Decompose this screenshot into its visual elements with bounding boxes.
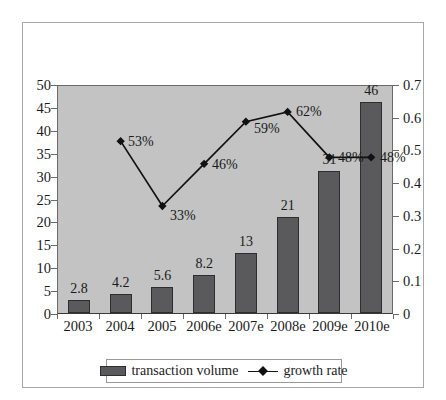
category-axis-label: 2006e	[183, 319, 225, 345]
bar-swatch-icon	[100, 366, 126, 376]
plot-area: 2.84.25.68.213213146 53%33%46%59%62%48%4…	[57, 85, 393, 314]
legend-entry-growth-rate[interactable]: growth rate	[248, 364, 347, 378]
line-diamond-icon	[248, 366, 278, 376]
growth-rate-value-label: 46%	[212, 158, 238, 172]
right-axis-tick-label: 0.7	[403, 78, 421, 93]
category-axis-label: 2003	[57, 319, 99, 345]
growth-rate-line	[121, 112, 372, 206]
category-axis-label: 2010e	[351, 319, 393, 345]
category-axis-labels: 2003200420052006e2007e2008e2009e2010e	[57, 319, 393, 345]
category-axis-label: 2008e	[267, 319, 309, 345]
right-axis-tick	[393, 249, 399, 250]
category-axis-label: 2009e	[309, 319, 351, 345]
right-axis-tick-label: 0	[403, 307, 410, 322]
right-axis-tick	[393, 85, 399, 86]
left-axis-tick-label: 10	[37, 261, 52, 276]
left-axis-tick-label: 15	[37, 238, 52, 253]
left-axis-tick-label: 20	[37, 215, 52, 230]
left-axis-tick-label: 25	[37, 192, 52, 207]
left-axis-tick-label: 30	[37, 169, 52, 184]
growth-rate-value-label: 48%	[380, 151, 406, 165]
growth-rate-value-label: 33%	[170, 209, 196, 223]
left-axis-tick-label: 5	[44, 284, 51, 299]
legend-label-transaction-volume: transaction volume	[131, 364, 238, 378]
diamond-marker-icon[interactable]	[367, 153, 375, 161]
legend-entry-transaction-volume[interactable]: transaction volume	[100, 364, 238, 378]
right-axis-tick-label: 0.2	[403, 241, 421, 256]
right-axis-tick	[393, 281, 399, 282]
growth-rate-value-label: 53%	[128, 135, 154, 149]
chart-legend: transaction volume growth rate	[106, 359, 342, 383]
diamond-marker-icon	[258, 366, 268, 376]
growth-rate-value-label: 59%	[254, 122, 280, 136]
growth-rate-value-label: 48%	[338, 151, 364, 165]
left-axis-tick-label: 0	[44, 307, 51, 322]
category-axis-label: 2005	[141, 319, 183, 345]
right-axis-tick	[393, 216, 399, 217]
right-axis-tick-label: 0.6	[403, 110, 421, 125]
right-axis-tick-label: 0.4	[403, 176, 421, 191]
category-axis-label: 2007e	[225, 319, 267, 345]
growth-rate-value-label: 62%	[296, 105, 322, 119]
diamond-marker-icon[interactable]	[116, 137, 124, 145]
left-axis-tick-label: 50	[37, 78, 52, 93]
chart-frame: 05101520253035404550 00.10.20.30.40.50.6…	[22, 22, 424, 388]
right-axis-tick	[393, 118, 399, 119]
left-value-axis: 05101520253035404550	[23, 85, 57, 314]
left-axis-tick-label: 40	[37, 124, 52, 139]
right-percent-axis: 00.10.20.30.40.50.60.7	[393, 85, 425, 314]
left-axis-tick-label: 45	[37, 101, 52, 116]
right-axis-tick	[393, 183, 399, 184]
legend-label-growth-rate: growth rate	[283, 364, 347, 378]
left-axis-tick-label: 35	[37, 146, 52, 161]
right-axis-tick-label: 0.3	[403, 209, 421, 224]
category-axis-label: 2004	[99, 319, 141, 345]
category-axis-tick	[393, 314, 394, 319]
right-axis-tick-label: 0.1	[403, 274, 421, 289]
line-series-growth-rate	[58, 86, 392, 313]
